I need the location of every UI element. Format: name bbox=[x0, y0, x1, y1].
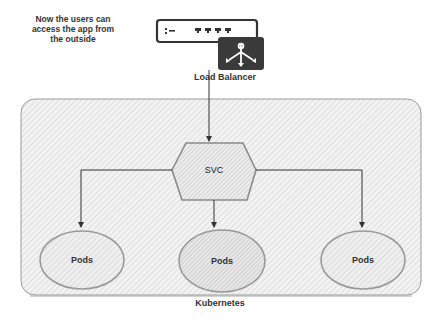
pod-label-3: Pods bbox=[333, 255, 393, 265]
note-line-2: access the app from bbox=[28, 24, 118, 34]
kubernetes-label: Kubernetes bbox=[170, 298, 270, 308]
note-line-3: the outside bbox=[28, 34, 118, 44]
annotation-note: Now the users can access the app from th… bbox=[28, 14, 118, 44]
pod-label-2: Pods bbox=[192, 256, 252, 266]
svc-label: SVC bbox=[172, 165, 256, 175]
load-balancer-label: Load Balancer bbox=[180, 72, 270, 82]
note-line-1: Now the users can bbox=[28, 14, 118, 24]
diagram-canvas bbox=[0, 0, 441, 324]
pod-label-1: Pods bbox=[52, 255, 112, 265]
load-balancer-icon bbox=[157, 20, 264, 70]
